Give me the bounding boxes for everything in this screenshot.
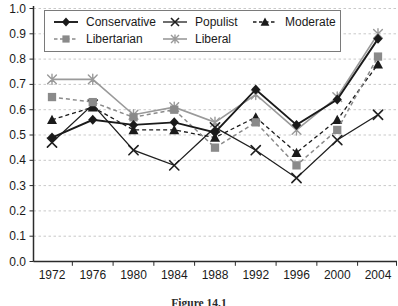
- square-marker: [333, 126, 341, 134]
- square-marker: [170, 106, 178, 114]
- y-axis-tick-labels: 0.00.10.20.30.40.50.60.70.80.91.0: [9, 2, 26, 269]
- y-tick-label: 1.0: [9, 2, 26, 16]
- x-marker: [251, 146, 260, 155]
- x-marker: [170, 161, 179, 170]
- x-tick-label: 1992: [242, 268, 269, 282]
- legend-item-liberal: Liberal: [163, 32, 253, 46]
- legend-item-libertarian: Libertarian: [54, 32, 163, 46]
- legend-row: LibertarianLiberal: [54, 31, 340, 47]
- square-marker: [292, 161, 300, 169]
- legend-row: ConservativePopulistModerate: [54, 14, 340, 30]
- legend-label-libertarian: Libertarian: [86, 32, 143, 46]
- asterisk-marker: [211, 117, 220, 127]
- x-tick-label: 1996: [283, 268, 310, 282]
- legend-label-conservative: Conservative: [86, 15, 156, 29]
- x-marker: [129, 146, 138, 155]
- y-tick-label: 0.8: [9, 52, 26, 66]
- legend-x-sample-icon: [163, 16, 187, 28]
- legend-item-populist: Populist: [163, 15, 253, 29]
- x-tick-label: 2004: [365, 268, 392, 282]
- square-marker: [48, 93, 56, 101]
- square-marker: [374, 52, 382, 60]
- diamond-marker: [88, 115, 97, 125]
- triangle-marker: [47, 115, 57, 124]
- legend-diamond-sample-icon: [54, 16, 78, 28]
- y-tick-label: 0.0: [9, 255, 26, 269]
- legend-square-sample-icon: [54, 33, 78, 45]
- legend-box: ConservativePopulistModerateLibertarianL…: [44, 10, 341, 52]
- y-tick-label: 0.5: [9, 128, 26, 142]
- x-marker: [292, 173, 301, 182]
- y-tick-label: 0.2: [9, 204, 26, 218]
- figure-caption: Figure 14.1: [0, 297, 398, 306]
- y-tick-label: 0.7: [9, 77, 26, 91]
- x-marker: [373, 110, 382, 119]
- diamond-marker: [47, 133, 56, 143]
- x-tick-label: 1972: [39, 268, 66, 282]
- x-tick-label: 1976: [79, 268, 106, 282]
- x-tick-label: 1984: [161, 268, 188, 282]
- y-tick-label: 0.3: [9, 179, 26, 193]
- x-marker: [333, 135, 342, 144]
- legend-asterisk-sample-icon: [163, 33, 187, 45]
- x-tick-label: 2000: [324, 268, 351, 282]
- series-moderate: [47, 59, 383, 157]
- y-tick-label: 0.9: [9, 27, 26, 41]
- y-tick-label: 0.4: [9, 153, 26, 167]
- legend-label-moderate: Moderate: [285, 15, 336, 29]
- y-tick-label: 0.6: [9, 103, 26, 117]
- square-marker: [89, 98, 97, 106]
- y-tick-label: 0.1: [9, 229, 26, 243]
- figure-container: 0.00.10.20.30.40.50.60.70.80.91.01972197…: [0, 0, 398, 306]
- diamond-marker: [170, 117, 179, 127]
- legend-label-liberal: Liberal: [195, 32, 231, 46]
- x-axis-tick-labels: 197219761980198419881992199620002004: [39, 268, 392, 282]
- legend-triangle-sample-icon: [253, 16, 277, 28]
- square-marker: [252, 118, 260, 126]
- legend-item-conservative: Conservative: [54, 15, 163, 29]
- square-marker: [211, 144, 219, 152]
- x-tick-label: 1980: [120, 268, 147, 282]
- x-tick-label: 1988: [202, 268, 229, 282]
- legend-label-populist: Populist: [195, 15, 238, 29]
- legend-item-moderate: Moderate: [253, 15, 340, 29]
